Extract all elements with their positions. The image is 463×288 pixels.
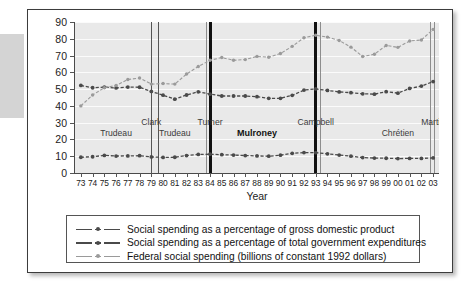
series-marker	[91, 86, 95, 90]
x-tick-mark	[257, 173, 258, 177]
series-marker	[173, 82, 176, 85]
series-marker	[431, 28, 434, 31]
series-marker	[243, 94, 247, 98]
x-tick-label: 92	[299, 178, 308, 188]
x-tick-mark	[339, 173, 340, 177]
legend-label: Federal social spending (billions of con…	[127, 251, 386, 262]
series-marker	[420, 38, 423, 41]
series-marker	[126, 85, 130, 89]
series-marker	[419, 84, 423, 88]
x-tick-label: 89	[264, 178, 273, 188]
series-marker	[255, 55, 258, 58]
y-tick-mark	[70, 56, 74, 57]
series-line	[81, 29, 433, 106]
y-tick-label: 0	[61, 168, 67, 179]
x-axis-ticks: 7374757677787980818283848586878889909192…	[75, 173, 439, 178]
series-marker	[102, 153, 106, 157]
series-marker	[126, 154, 130, 158]
series-marker	[361, 92, 365, 96]
series-marker	[138, 76, 141, 79]
x-tick-label: 01	[405, 178, 414, 188]
series-marker	[150, 82, 153, 85]
series-marker	[208, 59, 211, 62]
x-tick-mark	[222, 173, 223, 177]
series-plot	[75, 22, 439, 173]
x-tick-label: 83	[194, 178, 203, 188]
x-tick-mark	[363, 173, 364, 177]
legend-marker	[96, 227, 100, 231]
series-marker	[361, 156, 365, 160]
x-tick-mark	[386, 173, 387, 177]
legend-line-gap	[92, 255, 95, 259]
series-marker	[91, 155, 95, 159]
x-tick-mark	[210, 173, 211, 177]
x-tick-mark	[187, 173, 188, 177]
series-marker	[79, 104, 82, 107]
series-marker	[337, 90, 341, 94]
chart-area: 0102030405060708090 TrudeauClarkTrudeauT…	[44, 18, 440, 210]
x-tick-label: 98	[370, 178, 379, 188]
series-marker	[408, 87, 412, 91]
legend-marker	[96, 241, 100, 245]
x-tick-label: 00	[393, 178, 402, 188]
legend-line-gap	[101, 255, 104, 259]
series-marker	[361, 55, 364, 58]
x-tick-mark	[280, 173, 281, 177]
chart-legend: Social spending as a percentage of gross…	[66, 215, 420, 263]
series-marker	[161, 156, 165, 160]
x-tick-label: 81	[170, 178, 179, 188]
x-tick-mark	[410, 173, 411, 177]
series-marker	[302, 36, 305, 39]
legend-marker	[96, 254, 100, 258]
series-marker	[373, 92, 377, 96]
x-tick-label: 88	[252, 178, 261, 188]
x-tick-label: 02	[417, 178, 426, 188]
series-marker	[79, 155, 83, 159]
x-tick-mark	[245, 173, 246, 177]
x-tick-mark	[128, 173, 129, 177]
figure-card: 0102030405060708090 TrudeauClarkTrudeauT…	[27, 9, 453, 273]
x-tick-mark	[292, 173, 293, 177]
x-tick-label: 03	[428, 178, 437, 188]
y-tick-mark	[70, 22, 74, 23]
series-marker	[220, 56, 223, 59]
legend-swatch	[76, 225, 120, 234]
pm-era-label: Chrétien	[382, 128, 414, 138]
series-marker	[349, 154, 353, 158]
series-marker	[244, 58, 247, 61]
series-marker	[290, 93, 294, 97]
pm-era-label: Turner	[198, 117, 223, 127]
x-tick-label: 90	[276, 178, 285, 188]
legend-item[interactable]: Social spending as a percentage of gross…	[76, 222, 394, 236]
series-marker	[267, 154, 271, 158]
x-tick-mark	[81, 173, 82, 177]
pm-era-label: Martin	[421, 117, 439, 127]
y-tick-mark	[70, 139, 74, 140]
x-tick-mark	[140, 173, 141, 177]
legend-label: Social spending as a percentage of total…	[127, 237, 426, 248]
x-tick-mark	[327, 173, 328, 177]
series-marker	[114, 84, 117, 87]
legend-line-gap	[101, 241, 104, 245]
pm-era-label: Trudeau	[159, 128, 191, 138]
series-marker	[220, 94, 224, 98]
series-marker	[290, 151, 294, 155]
y-tick-mark	[70, 89, 74, 90]
x-tick-label: 94	[323, 178, 332, 188]
series-marker	[173, 97, 177, 101]
series-marker	[337, 39, 340, 42]
y-tick-label: 40	[55, 101, 67, 112]
y-tick-mark	[70, 39, 74, 40]
legend-item[interactable]: Social spending as a percentage of total…	[76, 236, 426, 250]
legend-item[interactable]: Federal social spending (billions of con…	[76, 249, 386, 263]
pm-era-label: Mulroney	[237, 128, 277, 138]
x-tick-mark	[398, 173, 399, 177]
series-marker	[396, 157, 400, 161]
y-tick-label: 10	[55, 151, 67, 162]
x-tick-label: 74	[88, 178, 97, 188]
x-tick-label: 85	[217, 178, 226, 188]
x-tick-mark	[421, 173, 422, 177]
y-tick-label: 20	[55, 134, 67, 145]
legend-swatch	[76, 252, 120, 261]
series-marker	[243, 154, 247, 158]
